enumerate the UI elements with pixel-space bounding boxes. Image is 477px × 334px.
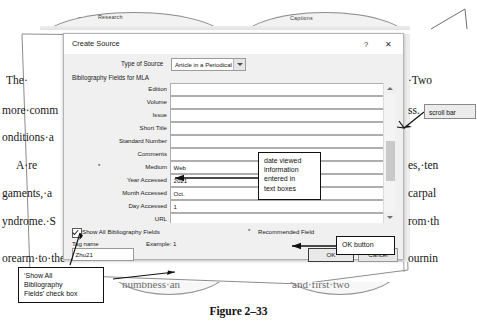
source-type-row: Type of Source Article in a Periodical: [64, 58, 403, 71]
field-label: URL: [155, 215, 167, 222]
create-source-dialog: Create Source ? ✕ Type of Source Article…: [63, 33, 404, 260]
field-input[interactable]: 1: [170, 200, 384, 213]
field-input[interactable]: [170, 122, 384, 135]
help-icon[interactable]: ?: [359, 38, 373, 51]
field-input[interactable]: [170, 96, 384, 109]
field-label: Short Title: [140, 124, 167, 131]
doc-fragment-bottom: and·first·two: [292, 282, 349, 290]
field-row: Volume: [72, 96, 395, 108]
show-all-label: Show All Bibliography Fields: [82, 228, 160, 235]
annotation-scroll-bar: scroll bar: [424, 104, 476, 119]
field-row: Day Accessed1: [72, 200, 395, 212]
scroll-down-icon[interactable]: [384, 212, 395, 223]
ribbon-label-research: Research: [98, 14, 123, 20]
doc-fragment-bottom: numbness·an: [122, 282, 180, 290]
field-row: Short Title: [72, 122, 395, 134]
dialog-title: Create Source: [72, 39, 120, 48]
chevron-down-icon[interactable]: [233, 59, 245, 70]
ribbon-hint-glyph: ••: [78, 15, 81, 20]
doc-fragment-right: rom·th: [408, 215, 439, 227]
field-row: URL: [72, 213, 395, 223]
field-value: Web: [174, 164, 186, 171]
close-icon[interactable]: ✕: [381, 38, 395, 51]
source-type-value: Article in a Periodical: [175, 61, 232, 68]
example-label: Example: 1: [146, 240, 176, 247]
bibliography-fields-header: Bibliography Fields for MLA: [72, 74, 149, 81]
field-row: Issue: [72, 109, 395, 121]
annotation-ok-button: OK button: [336, 236, 395, 255]
field-input[interactable]: [170, 83, 384, 96]
field-value: 2021: [174, 177, 188, 184]
annotation-date-viewed: date viewed information entered in text …: [258, 152, 321, 200]
field-input[interactable]: [170, 109, 384, 122]
field-row: Month AccessedOct.: [72, 187, 395, 199]
field-label: Volume: [147, 98, 167, 105]
field-input[interactable]: [170, 213, 384, 223]
doc-fragment-left: gaments,·a: [2, 187, 52, 199]
field-value: 1: [174, 203, 177, 210]
fields-scrollbar[interactable]: [383, 83, 395, 223]
field-row: *MediumWeb: [72, 161, 395, 173]
doc-fragment-right: ·Two: [408, 74, 432, 86]
recommended-field-legend: Recommended Field: [258, 228, 314, 235]
show-all-bibliography-fields-checkbox[interactable]: [72, 228, 82, 238]
doc-fragment-left: The·: [6, 74, 28, 86]
field-label: Comments: [138, 150, 167, 157]
field-label: Day Accessed: [128, 202, 167, 209]
dialog-title-bar[interactable]: Create Source ? ✕: [64, 34, 403, 54]
field-input[interactable]: [170, 135, 384, 148]
field-label: Month Accessed: [122, 189, 167, 196]
doc-fragment-left: A·re: [16, 159, 37, 171]
doc-fragment-right: ss.: [408, 104, 420, 116]
field-row: Comments: [72, 148, 395, 160]
doc-fragment-right: es,·ten: [408, 159, 438, 171]
doc-fragment-right: ournin: [408, 252, 438, 264]
field-row: Standard Number: [72, 135, 395, 147]
tag-name-input[interactable]: Zhu21: [72, 248, 134, 261]
dialog-body: Type of Source Article in a Periodical B…: [64, 54, 403, 259]
field-row: Edition: [72, 83, 395, 95]
doc-fragment-left: onditions·a: [2, 131, 54, 143]
ribbon-label-captions: Captions: [290, 15, 313, 21]
field-value: Oct.: [174, 190, 185, 197]
doc-fragment-left: more·comm: [2, 104, 58, 116]
tag-name-value: Zhu21: [76, 251, 93, 258]
doc-fragment-left: yndrome.·S: [2, 215, 56, 227]
bibliography-fields-pane: Edition Volume Issue Short Title Standar…: [72, 83, 395, 223]
field-label: Edition: [148, 85, 167, 92]
recommended-star-icon: *: [98, 163, 100, 169]
tag-name-label: Tag name: [72, 240, 99, 247]
field-row: Year Accessed2021: [72, 174, 395, 186]
recommended-star-icon: *: [248, 228, 250, 234]
doc-fragment-left: orearm·to·the: [2, 252, 65, 264]
field-label: Year Accessed: [127, 176, 167, 183]
screenshot-root: •• Research Captions The· more·comm ondi…: [0, 0, 477, 334]
field-label: Standard Number: [119, 137, 167, 144]
figure-caption: Figure 2–33: [0, 305, 477, 317]
source-type-label: Type of Source: [121, 60, 163, 67]
field-label: Medium: [145, 163, 167, 170]
scrollbar-thumb[interactable]: [386, 141, 395, 181]
field-label: Issue: [152, 111, 167, 118]
scroll-up-icon[interactable]: [384, 83, 395, 94]
doc-fragment-right: carpal: [408, 187, 436, 199]
source-type-select[interactable]: Article in a Periodical: [171, 58, 246, 71]
